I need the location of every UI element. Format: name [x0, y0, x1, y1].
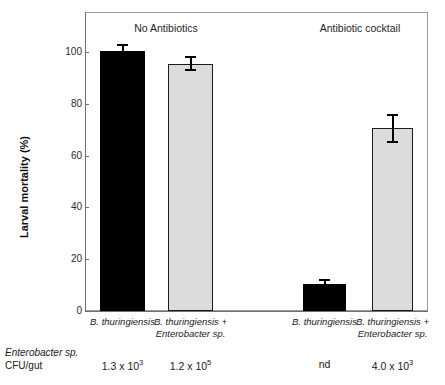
y-tick-mark	[85, 259, 89, 260]
y-tick-mark	[85, 207, 89, 208]
error-bar-2	[303, 279, 346, 289]
category-label-1: B. thuringiensis +Enterobacter sp.	[136, 316, 246, 340]
group-header-antibiotic-cocktail: Antibiotic cocktail	[305, 22, 415, 34]
cfu-value-1: 1.2 x 105	[146, 358, 236, 372]
group-header-no-antibiotics: No Antibiotics	[116, 22, 216, 34]
category-label-line1: B. thuringiensis +	[356, 316, 429, 327]
cfu-value-3: 4.0 x 103	[348, 358, 438, 372]
y-axis-line	[85, 12, 86, 311]
error-bar-3	[372, 114, 413, 142]
cfu-row-label-line2: CFU/gut	[5, 360, 42, 371]
cfu-row-label-line1: Enterobacter sp.	[5, 347, 78, 358]
y-tick-label: 100	[56, 47, 82, 57]
y-axis-title: Larval mortality (%)	[18, 97, 30, 277]
category-label-3: B. thuringiensis +Enterobacter sp.	[338, 316, 445, 340]
error-cap-bottom	[117, 55, 128, 57]
y-tick-mark	[85, 156, 89, 157]
cfu-exponent: 3	[409, 358, 413, 367]
error-cap-top	[319, 279, 330, 281]
error-bar-0	[100, 44, 145, 57]
error-cap-top	[117, 44, 128, 46]
error-bar-1	[168, 56, 213, 72]
y-tick-label: 20	[56, 254, 82, 264]
category-label-line2: Enterobacter sp.	[358, 328, 428, 339]
error-cap-bottom	[387, 141, 398, 143]
error-cap-top	[185, 56, 196, 58]
bar-0	[100, 51, 145, 311]
error-cap-top	[387, 114, 398, 116]
error-whisker	[392, 114, 394, 142]
bar-1	[168, 64, 213, 311]
cfu-exponent: 5	[207, 358, 211, 367]
y-tick-mark	[85, 104, 89, 105]
x-axis-line	[85, 311, 428, 312]
y-tick-label: 0	[56, 306, 82, 316]
y-tick-label: 60	[56, 151, 82, 161]
y-tick-mark	[85, 52, 89, 53]
bar-chart-figure: No Antibiotics Antibiotic cocktail Larva…	[0, 0, 445, 385]
y-tick-label: 80	[56, 99, 82, 109]
error-cap-bottom	[185, 69, 196, 71]
category-label-line2: Enterobacter sp.	[156, 328, 226, 339]
cfu-exponent: 3	[139, 358, 143, 367]
bar-3	[372, 128, 413, 311]
error-cap-bottom	[319, 287, 330, 289]
y-tick-mark	[85, 311, 89, 312]
category-label-line1: B. thuringiensis +	[154, 316, 227, 327]
y-tick-label: 40	[56, 202, 82, 212]
